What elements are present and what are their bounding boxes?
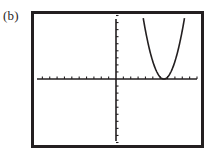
graph-plot (0, 0, 209, 152)
axes (37, 19, 197, 141)
parabola-curve (143, 18, 184, 79)
